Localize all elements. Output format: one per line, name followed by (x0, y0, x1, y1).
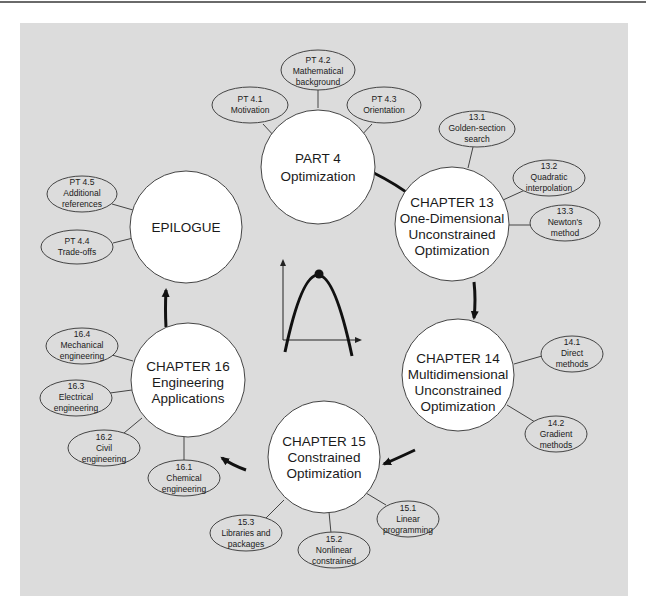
ch16-line1: CHAPTER 16 (146, 359, 229, 374)
node-epilogue: EPILOGUE (130, 171, 242, 283)
subnode-pt43: PT 4.3 Orientation (347, 87, 421, 123)
s133-label1: Newton's (548, 217, 583, 227)
node-ch13: CHAPTER 13 One-Dimensional Unconstrained… (395, 167, 509, 281)
pt41-label: Motivation (231, 105, 270, 115)
subnode-16-3: 16.3 Electrical engineering (40, 380, 112, 416)
subnode-pt44: PT 4.4 Trade-offs (41, 230, 113, 264)
subnode-15-1: 15.1 Linear programming (377, 501, 439, 537)
subnode-16-1: 16.1 Chemical engineering (148, 460, 220, 496)
s152-label1: Nonlinear (316, 545, 353, 555)
s142-number: 14.2 (548, 418, 565, 428)
s132-label1: Quadratic (531, 172, 569, 182)
node-ch15: CHAPTER 15 Constrained Optimization (268, 401, 380, 513)
s163-label1: Electrical (59, 392, 94, 402)
part4-subtitle: Optimization (280, 169, 355, 184)
s153-label2: packages (228, 539, 264, 549)
s152-label2: constrained (312, 556, 356, 566)
s161-number: 16.1 (176, 462, 193, 472)
s164-label2: engineering (60, 351, 105, 361)
subnode-16-4: 16.4 Mechanical engineering (46, 328, 118, 364)
ch13-line4: Optimization (414, 243, 489, 258)
ch13-line1: CHAPTER 13 (410, 195, 493, 210)
s131-number: 13.1 (469, 112, 486, 122)
s141-label1: Direct (561, 348, 584, 358)
ch14-line4: Optimization (420, 399, 495, 414)
s142-label1: Gradient (540, 429, 573, 439)
subnode-15-3: 15.3 Libraries and packages (210, 515, 282, 551)
s162-label2: engineering (82, 454, 127, 464)
part4-title: PART 4 (295, 151, 341, 166)
subnode-13-1: 13.1 Golden-section search (439, 111, 515, 147)
pt45-label1: Additional (63, 188, 100, 198)
pt43-number: PT 4.3 (372, 94, 397, 104)
node-ch14: CHAPTER 14 Multidimensional Unconstraine… (402, 319, 514, 431)
parabola-maximum-icon (280, 259, 362, 356)
pt42-label2: background (296, 77, 341, 87)
s132-number: 13.2 (541, 161, 558, 171)
s161-label2: engineering (162, 484, 207, 494)
pt45-label2: references (62, 199, 102, 209)
s133-number: 13.3 (557, 206, 574, 216)
pt41-number: PT 4.1 (238, 94, 263, 104)
subnode-13-2: 13.2 Quadratic interpolation (513, 160, 585, 196)
s133-label2: method (551, 228, 580, 238)
ch15-line2: Constrained (288, 450, 361, 465)
s164-number: 16.4 (74, 329, 91, 339)
s152-number: 15.2 (326, 534, 343, 544)
ch13-line3: Unconstrained (408, 227, 495, 242)
s132-label2: interpolation (526, 183, 573, 193)
ch14-line3: Unconstrained (414, 383, 501, 398)
s162-number: 16.2 (96, 432, 113, 442)
ch13-line2: One-Dimensional (400, 211, 504, 226)
subnode-16-2: 16.2 Civil engineering (68, 430, 140, 466)
ch15-line1: CHAPTER 15 (282, 434, 365, 449)
pt42-number: PT 4.2 (306, 55, 331, 65)
subnode-15-2: 15.2 Nonlinear constrained (298, 532, 370, 568)
s131-label2: search (464, 134, 490, 144)
pt43-label: Orientation (363, 105, 405, 115)
ch14-line2: Multidimensional (408, 367, 509, 382)
ch16-line2: Engineering (152, 375, 224, 390)
concept-map: PART 4 Optimization CHAPTER 13 One-Dimen… (0, 0, 646, 611)
s163-label2: engineering (54, 403, 99, 413)
s162-label1: Civil (96, 443, 112, 453)
s164-label1: Mechanical (61, 340, 104, 350)
s151-label1: Linear (396, 514, 420, 524)
pt45-number: PT 4.5 (70, 177, 95, 187)
pt44-number: PT 4.4 (65, 236, 90, 246)
ch16-line3: Applications (152, 391, 225, 406)
s161-label1: Chemical (166, 473, 202, 483)
s153-label1: Libraries and (221, 528, 270, 538)
s153-number: 15.3 (238, 517, 255, 527)
ch15-line3: Optimization (286, 466, 361, 481)
s141-label2: methods (556, 359, 589, 369)
node-part4: PART 4 Optimization (261, 110, 375, 224)
s141-number: 14.1 (564, 337, 581, 347)
subnode-pt42: PT 4.2 Mathematical background (281, 50, 355, 90)
subnode-pt41: PT 4.1 Motivation (212, 87, 288, 123)
pt44-label: Trade-offs (58, 247, 96, 257)
s142-label2: methods (540, 440, 573, 450)
pt42-label1: Mathematical (293, 66, 344, 76)
subnode-14-1: 14.1 Direct methods (541, 336, 603, 372)
s151-number: 15.1 (400, 503, 417, 513)
s151-label2: programming (383, 525, 433, 535)
s163-number: 16.3 (68, 381, 85, 391)
subnode-pt45: PT 4.5 Additional references (47, 176, 117, 212)
epilogue-title: EPILOGUE (151, 220, 220, 235)
node-ch16: CHAPTER 16 Engineering Applications (131, 323, 245, 437)
s131-label1: Golden-section (448, 123, 505, 133)
ch14-line1: CHAPTER 14 (416, 351, 500, 366)
subnode-14-2: 14.2 Gradient methods (525, 416, 587, 452)
subnode-13-3: 13.3 Newton's method (530, 205, 600, 241)
